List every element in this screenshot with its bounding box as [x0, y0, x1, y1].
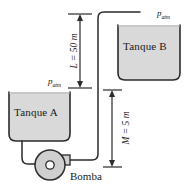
patm-tank-a-subscript: atm: [53, 82, 61, 88]
dimension-l-arrowhead-down: [77, 81, 83, 88]
pump-group: [35, 150, 70, 180]
patm-tank-b-label: patm: [157, 8, 170, 20]
tank-a-label: Tanque A: [14, 106, 58, 118]
pump-shaft-hub: [46, 161, 54, 169]
dimension-m-arrowhead-down: [109, 160, 115, 167]
dimension-m-group: [103, 90, 122, 167]
dimension-m-arrowhead-up: [109, 90, 115, 97]
pump-label: Bomba: [70, 170, 102, 182]
tank-b-liquid: [118, 25, 180, 80]
dimension-m-label: M = 5 m: [121, 100, 131, 156]
schematic-drawing: [0, 0, 190, 195]
tank-b-label: Tanque B: [123, 40, 167, 52]
patm-tank-b-subscript: atm: [162, 14, 170, 20]
tank-b-group: [118, 25, 180, 80]
dimension-l-arrowhead-up: [77, 14, 83, 21]
pumping-system-diagram: Tanque A Tanque B patm patm L = 50 m M =…: [0, 0, 190, 195]
suction-pipe: [22, 141, 36, 164]
dimension-l-label: L = 50 m: [69, 21, 79, 81]
patm-tank-a-label: patm: [48, 76, 61, 88]
